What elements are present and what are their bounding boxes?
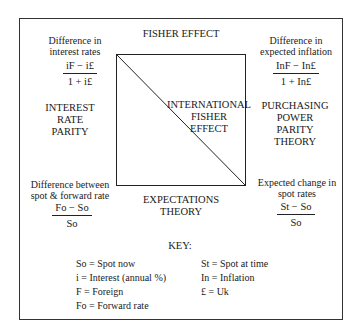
label-line: THEORY [116,206,246,218]
key-entry: In = Inflation [201,271,268,285]
label-line: FISHER [164,111,254,123]
international-fisher-effect-label: INTERNATIONAL FISHER EFFECT [164,99,254,135]
formula-numerator: InF − In£ [273,60,319,74]
label-line: POWER [250,112,340,124]
label-line: RATE [25,114,115,126]
caption-line: Expected change in [247,177,347,188]
label-line: PURCHASING [250,100,340,112]
formula-numerator: Fo − So [52,202,91,216]
expectations-theory-label: EXPECTATIONS THEORY [116,194,246,218]
label-line: EFFECT [164,123,254,135]
formula-denominator: So [22,217,122,230]
top-right-caption: Difference in expected inflation [246,35,346,57]
purchasing-power-parity-label: PURCHASING POWER PARITY THEORY [250,100,340,148]
top-left-caption: Difference in interest rates [30,35,120,57]
key-entry: St = Spot at time [201,257,268,271]
formula-denominator: 1 + In£ [246,75,346,88]
caption-line: spot rates [247,188,347,199]
label-line: PARITY [250,124,340,136]
label-line: INTERNATIONAL [164,99,254,111]
top-left-formula: iF − i£ 1 + i£ [30,60,130,88]
top-right-formula: InF − In£ 1 + In£ [246,60,346,88]
key-entry: F = Foreign [76,285,166,299]
label-line: PARITY [25,126,115,138]
formula-numerator: St − So [277,201,314,215]
bottom-right-caption: Expected change in spot rates [247,177,347,199]
formula-denominator: 1 + i£ [30,75,130,88]
formula-numerator: iF − i£ [63,60,97,74]
key-left-column: So = Spot now i = Interest (annual %) F … [76,257,166,313]
key-entry: i = Interest (annual %) [76,271,166,285]
caption-line: spot & forward rate [20,190,120,201]
key-title: KEY: [150,240,210,252]
caption-line: Difference in [246,35,346,46]
caption-line: Difference in [30,35,120,46]
key-right-column: St = Spot at time In = Inflation £ = Uk [201,257,268,299]
key-entry: Fo = Forward rate [76,299,166,313]
caption-line: expected inflation [246,46,346,57]
caption-line: Difference between [20,179,120,190]
bottom-right-formula: St − So So [246,201,346,229]
label-line: THEORY [250,136,340,148]
label-line: EXPECTATIONS [116,194,246,206]
formula-denominator: So [246,216,346,229]
label-line: INTEREST [25,102,115,114]
interest-rate-parity-label: INTEREST RATE PARITY [25,102,115,138]
fisher-effect-label: FISHER EFFECT [116,28,246,40]
key-entry: So = Spot now [76,257,166,271]
bottom-left-formula: Fo − So So [22,202,122,230]
caption-line: interest rates [30,46,120,57]
bottom-left-caption: Difference between spot & forward rate [20,179,120,201]
key-entry: £ = Uk [201,285,268,299]
